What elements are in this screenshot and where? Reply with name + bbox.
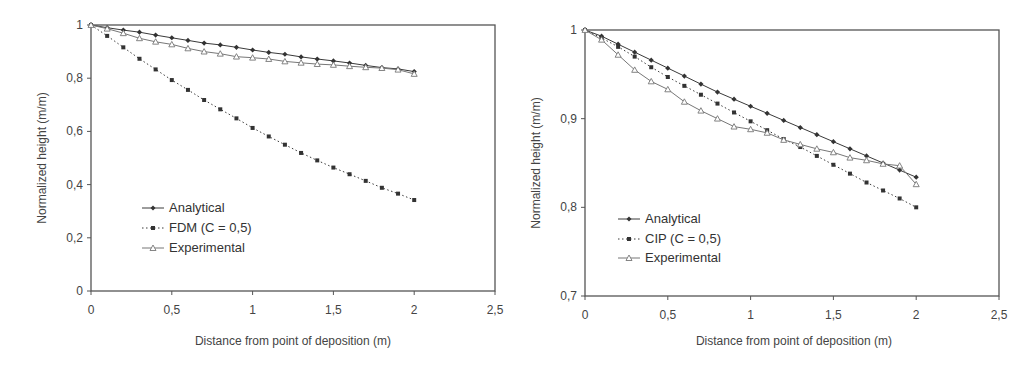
square-marker-icon <box>649 65 653 69</box>
square-marker-icon <box>315 158 319 162</box>
diamond-marker-icon <box>682 74 687 79</box>
square-marker-icon <box>170 78 174 82</box>
x-tick-label: 0,5 <box>163 303 180 317</box>
x-tick-label: 0,5 <box>659 308 676 322</box>
square-marker-icon <box>380 186 384 190</box>
y-tick-label: 0,2 <box>66 231 83 245</box>
x-tick-label: 2,5 <box>487 303 504 317</box>
legend-item-experimental: Experimental <box>618 250 721 265</box>
left-chart: 00,20,40,60,81 00,511,522,5 Normalized h… <box>35 18 504 348</box>
diamond-marker-icon <box>266 50 271 55</box>
diamond-marker-icon <box>847 146 852 151</box>
x-tick-label: 1,5 <box>325 303 342 317</box>
y-tick-label: 1 <box>76 18 83 32</box>
square-marker-icon <box>396 192 400 196</box>
legend-label-experimental: Experimental <box>169 240 245 255</box>
series-cip-c-0-5 <box>583 28 918 209</box>
legend-item-cip: CIP (C = 0,5) <box>618 231 721 246</box>
y-tick-label: 0,4 <box>66 178 83 192</box>
square-marker-icon <box>865 181 869 185</box>
diamond-marker-icon <box>185 38 190 43</box>
legend-label-fdm: FDM (C = 0,5) <box>169 220 252 235</box>
legend-item-analytical: Analytical <box>618 211 701 226</box>
diamond-marker-icon <box>798 125 803 130</box>
square-marker-icon <box>154 67 158 71</box>
right-y-axis-title: Normalized height (m/m) <box>529 97 543 228</box>
diamond-marker-icon <box>632 50 637 55</box>
triangle-marker-icon <box>648 78 654 83</box>
x-tick-label: 2,5 <box>991 308 1008 322</box>
y-tick-label: 0,6 <box>66 124 83 138</box>
square-marker-icon <box>848 172 852 176</box>
left-data-series <box>88 22 417 202</box>
triangle-marker-icon <box>714 116 720 121</box>
square-marker-icon <box>267 134 271 138</box>
square-marker-icon <box>732 110 736 114</box>
diamond-marker-icon <box>831 139 836 144</box>
square-marker-icon <box>898 196 902 200</box>
square-marker-icon <box>616 45 620 49</box>
legend-label-cip: CIP (C = 0,5) <box>645 231 721 246</box>
square-marker-icon <box>348 172 352 176</box>
x-tick-label: 0 <box>582 308 589 322</box>
diamond-marker-icon <box>627 217 632 222</box>
right-legend: Analytical CIP (C = 0,5) Experimental <box>618 211 721 265</box>
x-tick-label: 0 <box>88 303 95 317</box>
x-tick-label: 2 <box>913 308 920 322</box>
square-marker-icon <box>202 98 206 102</box>
legend-label-analytical: Analytical <box>645 211 701 226</box>
diamond-marker-icon <box>715 89 720 94</box>
square-marker-icon <box>121 45 125 49</box>
triangle-marker-icon <box>731 124 737 129</box>
left-y-axis-ticks: 00,20,40,60,81 <box>66 18 91 298</box>
diamond-marker-icon <box>282 52 287 57</box>
square-marker-icon <box>682 84 686 88</box>
square-marker-icon <box>151 226 155 230</box>
diamond-marker-icon <box>698 81 703 86</box>
left-x-axis-ticks: 00,511,522,5 <box>88 291 504 317</box>
y-tick-label: 0,9 <box>560 112 577 126</box>
triangle-marker-icon <box>698 108 704 113</box>
diamond-marker-icon <box>218 42 223 47</box>
square-marker-icon <box>186 88 190 92</box>
diamond-marker-icon <box>151 206 156 211</box>
series-analytical <box>582 27 918 179</box>
square-marker-icon <box>831 163 835 167</box>
left-x-axis-title: Distance from point of deposition (m) <box>195 334 391 348</box>
square-marker-icon <box>299 151 303 155</box>
diamond-marker-icon <box>814 132 819 137</box>
y-tick-label: 1 <box>570 23 577 37</box>
series-analytical <box>88 22 416 74</box>
diamond-marker-icon <box>748 104 753 109</box>
square-marker-icon <box>699 93 703 97</box>
square-marker-icon <box>815 154 819 158</box>
square-marker-icon <box>749 119 753 123</box>
square-marker-icon <box>137 57 141 61</box>
square-marker-icon <box>331 166 335 170</box>
square-marker-icon <box>881 188 885 192</box>
chart-canvas: 00,20,40,60,81 00,511,522,5 Normalized h… <box>0 0 1031 366</box>
diamond-marker-icon <box>914 175 919 180</box>
left-plot-area <box>91 25 495 291</box>
x-tick-label: 2 <box>411 303 418 317</box>
legend-item-experimental: Experimental <box>142 240 245 255</box>
square-marker-icon <box>715 102 719 106</box>
y-tick-label: 0,8 <box>560 200 577 214</box>
square-marker-icon <box>666 75 670 79</box>
diamond-marker-icon <box>250 47 255 52</box>
x-tick-label: 1 <box>249 303 256 317</box>
x-tick-label: 1 <box>747 308 754 322</box>
right-x-axis-ticks: 00,511,522,5 <box>582 296 1008 322</box>
left-y-axis-title: Normalized height (m/m) <box>35 92 49 223</box>
triangle-marker-icon <box>665 86 671 91</box>
square-marker-icon <box>627 237 631 241</box>
y-tick-label: 0,7 <box>560 289 577 303</box>
square-marker-icon <box>105 34 109 38</box>
legend-item-fdm: FDM (C = 0,5) <box>142 220 252 235</box>
diamond-marker-icon <box>765 111 770 116</box>
square-marker-icon <box>234 116 238 120</box>
diamond-marker-icon <box>649 58 654 63</box>
right-x-axis-title: Distance from point of deposition (m) <box>696 334 892 348</box>
right-y-axis-ticks: 0,70,80,91 <box>560 23 585 303</box>
right-chart: 0,70,80,91 00,511,522,5 Normalized heigh… <box>529 23 1008 348</box>
